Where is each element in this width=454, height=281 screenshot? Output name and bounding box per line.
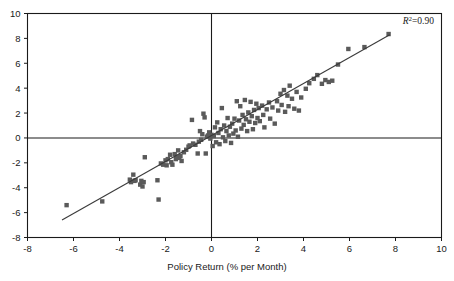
- y-tick-label: 0: [15, 132, 20, 143]
- x-tick-label: 2: [255, 243, 260, 254]
- scatter-point: [196, 151, 200, 155]
- scatter-point: [268, 116, 272, 120]
- scatter-point: [270, 105, 274, 109]
- y-tick-label: 6: [15, 58, 20, 69]
- y-tick-label: -6: [12, 207, 20, 218]
- r-squared-annotation: R2=0.90: [402, 15, 435, 26]
- x-tick-label: 4: [301, 243, 306, 254]
- scatter-point: [204, 151, 208, 155]
- x-tick-label: 6: [347, 243, 352, 254]
- scatter-point: [236, 135, 240, 139]
- scatter-point: [131, 172, 135, 176]
- scatter-point: [286, 104, 290, 108]
- scatter-point: [179, 159, 183, 163]
- x-axis-title: Policy Return (% per Month): [167, 261, 286, 272]
- scatter-point: [262, 125, 266, 129]
- scatter-point: [251, 127, 255, 131]
- chart-canvas: -8-6-4-20246810 -8-6-4-20246810 Policy R…: [0, 0, 454, 281]
- x-tick-label: -4: [115, 243, 123, 254]
- scatter-point: [200, 132, 204, 136]
- scatter-point: [273, 121, 277, 125]
- scatter-point: [217, 142, 221, 146]
- scatter-chart: -8-6-4-20246810 -8-6-4-20246810 Policy R…: [0, 0, 454, 281]
- scatter-point: [64, 203, 68, 207]
- scatter-point: [250, 114, 254, 118]
- scatter-point: [290, 97, 294, 101]
- scatter-point: [213, 125, 217, 129]
- scatter-point: [176, 148, 180, 152]
- scatter-point: [223, 139, 227, 143]
- scatter-point: [220, 106, 224, 110]
- scatter-point: [253, 121, 257, 125]
- scatter-point: [299, 95, 303, 99]
- scatter-point: [247, 120, 251, 124]
- scatter-point: [288, 83, 292, 87]
- scatter-point: [229, 141, 233, 145]
- x-tick-label: 8: [393, 243, 398, 254]
- scatter-point: [143, 155, 147, 159]
- scatter-point: [282, 88, 286, 92]
- y-tick-label: 4: [15, 83, 20, 94]
- scatter-point: [304, 87, 308, 91]
- scatter-point: [215, 120, 219, 124]
- scatter-point: [140, 184, 144, 188]
- scatter-point: [258, 119, 262, 123]
- scatter-point: [292, 107, 296, 111]
- y-tick-label: 8: [15, 33, 20, 44]
- x-tick-label: 0: [209, 243, 214, 254]
- scatter-point: [100, 199, 104, 203]
- scatter-point: [164, 163, 168, 167]
- scatter-point: [248, 100, 252, 104]
- scatter-point: [155, 178, 159, 182]
- scatter-point: [190, 118, 194, 122]
- x-tick-label: 10: [436, 243, 447, 254]
- scatter-point: [254, 102, 258, 106]
- y-tick-label: -4: [12, 182, 20, 193]
- y-tick-label: -8: [12, 232, 20, 243]
- scatter-point: [297, 108, 301, 112]
- scatter-point: [168, 153, 172, 157]
- scatter-point: [225, 116, 229, 120]
- scatter-point: [285, 93, 289, 97]
- scatter-point: [227, 133, 231, 137]
- scatter-point: [141, 180, 145, 184]
- scatter-point: [238, 104, 242, 108]
- scatter-point: [233, 128, 237, 132]
- y-tick-label: -2: [12, 157, 20, 168]
- x-tick-label: -6: [69, 243, 77, 254]
- scatter-point: [346, 47, 350, 51]
- scatter-point: [242, 123, 246, 127]
- scatter-point: [170, 163, 174, 167]
- scatter-point: [224, 129, 228, 133]
- scatter-point: [232, 116, 236, 120]
- scatter-point: [202, 115, 206, 119]
- scatter-point: [294, 90, 298, 94]
- y-tick-label: 10: [10, 8, 21, 19]
- x-tick-label: -8: [23, 243, 31, 254]
- scatter-point: [276, 108, 280, 112]
- x-tick-label: -2: [161, 243, 169, 254]
- scatter-point: [283, 110, 287, 114]
- scatter-point: [330, 79, 334, 83]
- scatter-point: [279, 103, 283, 107]
- scatter-point: [156, 197, 160, 201]
- scatter-point: [261, 113, 265, 117]
- y-tick-label: 2: [15, 108, 20, 119]
- r-squared-value: =0.90: [412, 16, 434, 26]
- scatter-point: [245, 129, 249, 133]
- scatter-point: [235, 99, 239, 103]
- scatter-point: [265, 107, 269, 111]
- scatter-point: [243, 98, 247, 102]
